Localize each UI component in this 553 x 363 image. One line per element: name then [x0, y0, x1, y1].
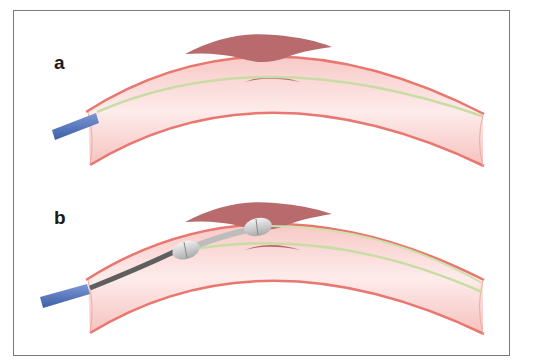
vessel-diagram — [0, 0, 553, 363]
catheter-sheath-b — [40, 284, 90, 308]
panel-b-vessel — [86, 224, 484, 334]
panel-a-vessel — [86, 56, 484, 166]
